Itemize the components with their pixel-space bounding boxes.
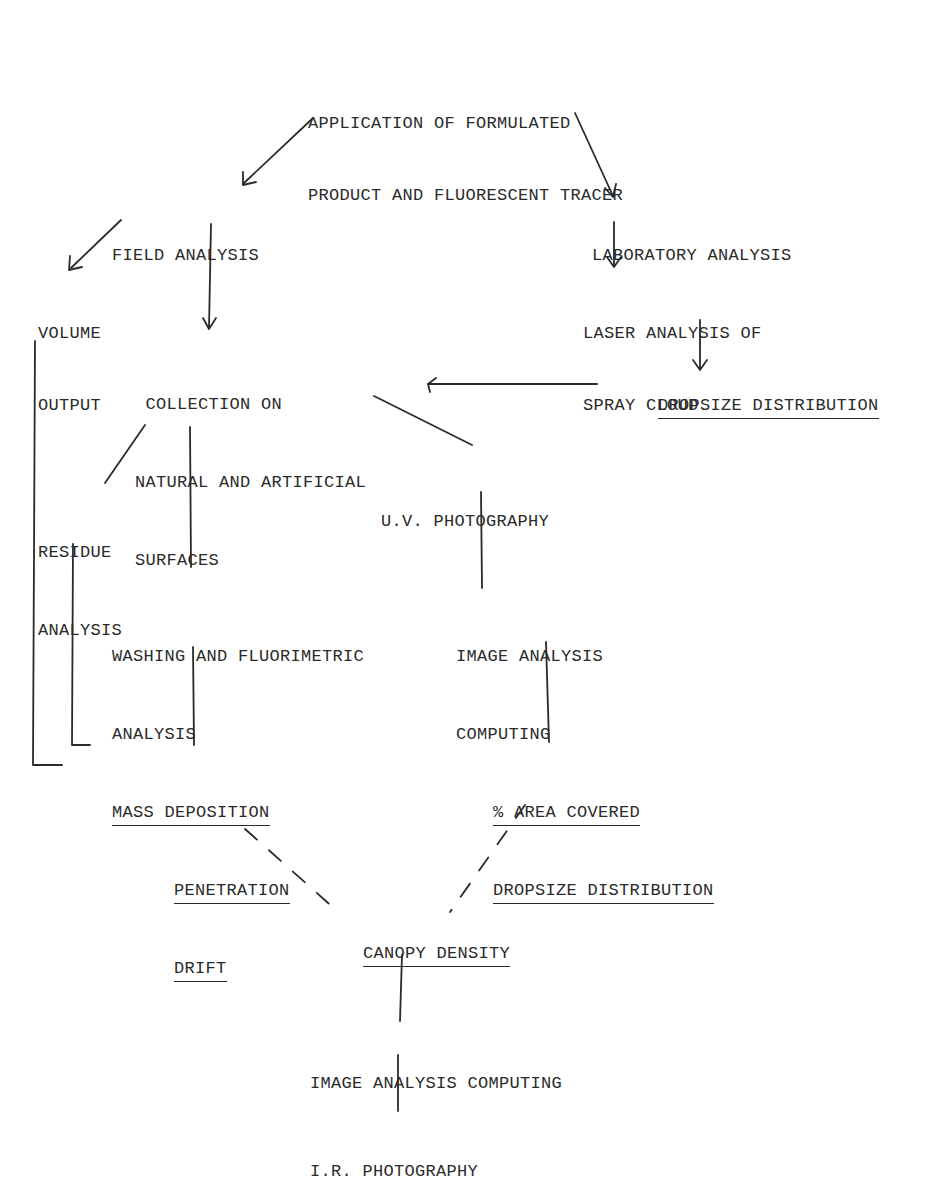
node-washing-line-1: WASHING AND FLUORIMETRIC xyxy=(112,644,364,670)
node-residue-analysis: RESIDUE ANALYSIS xyxy=(38,488,122,696)
node-image-analysis-uv-line-1: IMAGE ANALYSIS xyxy=(456,644,603,670)
node-application: APPLICATION OF FORMULATED PRODUCT AND FL… xyxy=(308,64,623,256)
node-laser-analysis-line-1: LASER ANALYSIS OF xyxy=(583,322,762,346)
node-washing-line-2: ANALYSIS xyxy=(112,722,364,748)
node-residue-analysis-line-1: RESIDUE xyxy=(38,540,122,566)
node-application-line-2: PRODUCT AND FLUORESCENT TRACER xyxy=(308,184,623,208)
arrow-dropsize-to-collection xyxy=(428,378,597,392)
node-canopy-density: CANOPY DENSITY xyxy=(321,918,510,991)
flowchart-page: APPLICATION OF FORMULATED PRODUCT AND FL… xyxy=(0,0,929,1190)
node-area-covered-line-1: % AREA COVERED xyxy=(493,802,640,826)
node-application-line-1: APPLICATION OF FORMULATED xyxy=(308,112,623,136)
node-collection: COLLECTION ON NATURAL AND ARTIFICIAL SUR… xyxy=(135,340,366,626)
node-volume-output-line-2: OUTPUT xyxy=(38,394,101,418)
node-residue-analysis-line-2: ANALYSIS xyxy=(38,618,122,644)
node-field-analysis-label: FIELD ANALYSIS xyxy=(112,244,259,268)
node-dropsize-distribution-label: DROPSIZE DISTRIBUTION xyxy=(658,395,879,419)
node-mass-deposition-line-2: PENETRATION xyxy=(174,880,290,904)
node-collection-line-1: COLLECTION ON xyxy=(135,392,366,418)
node-area-covered-line-2: DROPSIZE DISTRIBUTION xyxy=(493,880,714,904)
node-field-analysis: FIELD ANALYSIS xyxy=(112,196,259,316)
node-mass-deposition-line-1: MASS DEPOSITION xyxy=(112,802,270,826)
node-image-analysis-uv-line-2: COMPUTING xyxy=(456,722,603,748)
node-uv-photography-label: U.V. PHOTOGRAPHY xyxy=(381,510,549,534)
node-mass-deposition-line-3: DRIFT xyxy=(174,958,227,982)
node-volume-output: VOLUME OUTPUT xyxy=(38,274,101,466)
line-collection-to-uv xyxy=(374,396,472,445)
node-mass-deposition: MASS DEPOSITION PENETRATION DRIFT xyxy=(112,748,290,1034)
node-ir-photography-label: I.R. PHOTOGRAPHY xyxy=(310,1160,478,1184)
arrow-application-to-field xyxy=(243,119,312,185)
node-collection-line-3: SURFACES xyxy=(135,548,366,574)
node-uv-photography: U.V. PHOTOGRAPHY xyxy=(381,462,549,582)
node-laboratory-analysis-label: LABORATORY ANALYSIS xyxy=(592,244,792,268)
node-image-analysis-ir-label: IMAGE ANALYSIS COMPUTING xyxy=(310,1072,562,1096)
node-ir-photography: I.R. PHOTOGRAPHY xyxy=(310,1112,478,1190)
node-volume-output-line-1: VOLUME xyxy=(38,322,101,346)
node-collection-line-2: NATURAL AND ARTIFICIAL xyxy=(135,470,366,496)
node-area-covered: % AREA COVERED DROPSIZE DISTRIBUTION xyxy=(493,748,714,956)
node-canopy-density-label: CANOPY DENSITY xyxy=(363,943,510,967)
node-dropsize-distribution: DROPSIZE DISTRIBUTION xyxy=(616,370,879,443)
